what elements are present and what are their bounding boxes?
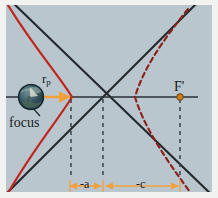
focal-distance-label: -c bbox=[136, 178, 145, 190]
rp-label: rp bbox=[42, 72, 51, 87]
earth-globe-icon bbox=[18, 84, 44, 110]
focus-dot-icon bbox=[177, 94, 183, 100]
focus-label: focus bbox=[9, 116, 39, 130]
plot-area: rp focus F' -a -c bbox=[0, 0, 218, 198]
hyperbola-figure: rp focus F' -a -c bbox=[0, 0, 218, 198]
f-prime-label: F' bbox=[174, 80, 184, 94]
semi-major-label: -a bbox=[80, 178, 89, 190]
rp-label-sub: p bbox=[46, 77, 51, 87]
